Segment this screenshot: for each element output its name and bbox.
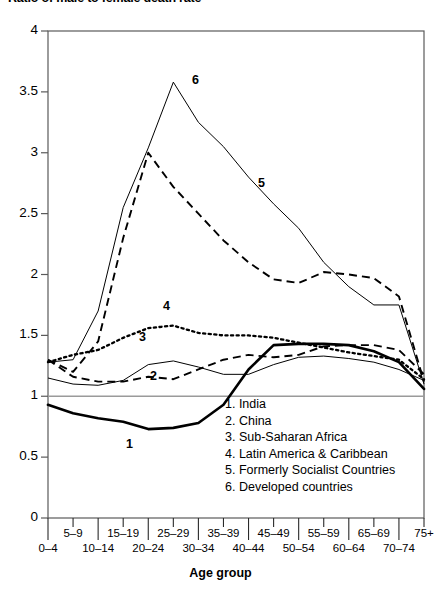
x-tick-label: 40–44 <box>226 542 272 554</box>
y-tick-label: 1.5 <box>2 326 38 341</box>
x-tick-label: 45–49 <box>251 527 297 539</box>
x-tick-label: 5–9 <box>50 527 96 539</box>
plot-area <box>0 0 441 597</box>
x-axis-title: Age group <box>0 566 441 580</box>
legend-item-1: 1. India <box>225 396 395 413</box>
x-tick-label: 0–4 <box>25 542 71 554</box>
x-tick-label: 50–54 <box>276 542 322 554</box>
curve-label-4: 4 <box>163 299 170 313</box>
legend-item-2: 2. China <box>225 413 395 430</box>
y-tick-label: 3 <box>2 144 38 159</box>
x-tick-label: 70–74 <box>376 542 422 554</box>
curve-label-5: 5 <box>258 176 265 190</box>
y-axis-ticks <box>41 31 48 518</box>
curve-label-2: 2 <box>150 369 157 383</box>
y-tick-label: 2 <box>2 266 38 281</box>
x-tick-label: 75+ <box>401 527 441 539</box>
y-tick-label: 2.5 <box>2 205 38 220</box>
x-tick-label: 15–19 <box>100 527 146 539</box>
x-tick-label: 30–34 <box>175 542 221 554</box>
y-tick-label: 3.5 <box>2 83 38 98</box>
chart-figure: Ratio of male to female death rate 00.51… <box>0 0 441 597</box>
x-tick-label: 35–39 <box>200 527 246 539</box>
y-tick-label: 0 <box>2 509 38 524</box>
x-tick-label: 20–24 <box>125 542 171 554</box>
y-tick-label: 1 <box>2 387 38 402</box>
series-line-4 <box>48 326 424 380</box>
y-tick-label: 4 <box>2 22 38 37</box>
legend-item-5: 5. Formerly Socialist Countries <box>225 462 395 479</box>
x-tick-label: 25–29 <box>150 527 196 539</box>
curve-label-6: 6 <box>192 73 199 87</box>
curve-label-3: 3 <box>139 330 146 344</box>
chart-legend: 1. India 2. China 3. Sub-Saharan Africa … <box>225 396 395 496</box>
series-line-3 <box>48 356 424 385</box>
legend-item-3: 3. Sub-Saharan Africa <box>225 429 395 446</box>
x-tick-label: 65–69 <box>351 527 397 539</box>
legend-item-4: 4. Latin America & Caribbean <box>225 446 395 463</box>
x-tick-label: 60–64 <box>326 542 372 554</box>
series-layer <box>48 82 424 429</box>
series-line-6 <box>48 82 424 384</box>
x-tick-label: 10–14 <box>75 542 121 554</box>
curve-label-1: 1 <box>126 437 133 451</box>
legend-item-6: 6. Developed countries <box>225 479 395 496</box>
y-tick-label: 0.5 <box>2 448 38 463</box>
x-tick-label: 55–59 <box>301 527 347 539</box>
